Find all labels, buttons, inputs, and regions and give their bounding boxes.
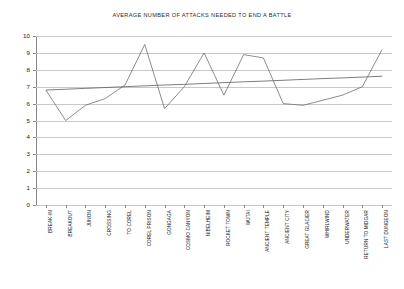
gridline: [36, 36, 392, 37]
x-axis-tick-label: CROSSING: [107, 210, 112, 236]
x-axis-tick-label: ANCIENT TEMPLE: [265, 210, 270, 252]
x-axis-tick-mark: [244, 205, 245, 208]
x-axis-tick-label: TO COREL: [127, 210, 132, 235]
y-axis-tick-label: 7: [8, 83, 30, 90]
x-axis-tick-mark: [125, 205, 126, 208]
y-axis-tick-label: 4: [8, 133, 30, 140]
gridline: [36, 104, 392, 105]
x-axis-tick-mark: [105, 205, 106, 208]
y-axis-tick-mark: [33, 70, 36, 71]
x-axis-tick-label: ROCKET TOWN: [226, 210, 231, 246]
y-axis-tick-mark: [33, 53, 36, 54]
y-axis-tick-label: 2: [8, 167, 30, 174]
data-series-line: [46, 44, 382, 120]
gridline: [36, 137, 392, 138]
chart-container: AVERAGE NUMBER OF ATTACKS NEEDED TO END …: [0, 0, 404, 289]
x-axis-tick-label: ANCIENT CITY: [285, 210, 290, 244]
x-axis-tick-mark: [204, 205, 205, 208]
x-axis-tick-label: BREAKOUT: [68, 210, 73, 236]
y-axis-tick-label: 1: [8, 184, 30, 191]
y-axis-tick-label: 10: [8, 32, 30, 39]
x-axis-tick-label: JUNON: [87, 210, 92, 227]
chart-title: AVERAGE NUMBER OF ATTACKS NEEDED TO END …: [0, 12, 404, 18]
x-axis-tick-label: UNDERWATER: [345, 210, 350, 244]
x-axis-tick-mark: [145, 205, 146, 208]
y-axis-tick-label: 3: [8, 150, 30, 157]
y-axis-tick-label: 8: [8, 66, 30, 73]
series-plot: [0, 0, 404, 289]
y-axis-tick-mark: [33, 154, 36, 155]
x-axis-tick-mark: [362, 205, 363, 208]
y-axis-tick-mark: [33, 188, 36, 189]
x-axis-tick-label: RETURN TO MIDGAR: [364, 210, 369, 259]
x-axis-tick-mark: [303, 205, 304, 208]
x-axis-tick-label: WHIRLWIND: [325, 210, 330, 238]
y-axis-tick-mark: [33, 171, 36, 172]
x-axis-tick-mark: [46, 205, 47, 208]
gridline: [36, 154, 392, 155]
x-axis-tick-mark: [283, 205, 284, 208]
y-axis-tick-mark: [33, 137, 36, 138]
gridline: [36, 171, 392, 172]
trendline: [46, 76, 382, 90]
x-axis-tick-mark: [165, 205, 166, 208]
x-axis-tick-mark: [382, 205, 383, 208]
x-axis-tick-label: NIBELHEIM: [206, 210, 211, 236]
x-axis-tick-mark: [184, 205, 185, 208]
x-axis-tick-mark: [85, 205, 86, 208]
x-axis-tick-label: LAST DUNGEON: [384, 210, 389, 248]
y-axis-tick-label: 5: [8, 117, 30, 124]
y-axis-tick-mark: [33, 36, 36, 37]
y-axis-tick-mark: [33, 104, 36, 105]
x-axis-tick-mark: [323, 205, 324, 208]
x-axis-tick-label: COREL PRISON: [147, 210, 152, 246]
gridline: [36, 205, 392, 206]
y-axis-tick-mark: [33, 121, 36, 122]
gridline: [36, 87, 392, 88]
gridline: [36, 121, 392, 122]
y-axis-tick-label: 9: [8, 49, 30, 56]
y-axis-tick-label: 0: [8, 201, 30, 208]
x-axis-tick-label: GONGAGA: [167, 210, 172, 235]
x-axis-tick-mark: [263, 205, 264, 208]
x-axis-tick-label: COSMO CANYON: [186, 210, 191, 250]
x-axis-tick-mark: [224, 205, 225, 208]
gridline: [36, 53, 392, 54]
x-axis-tick-mark: [66, 205, 67, 208]
gridline: [36, 188, 392, 189]
gridline: [36, 70, 392, 71]
x-axis-tick-label: WUTAI: [246, 210, 251, 225]
x-axis-tick-label: GREAT GLACIER: [305, 210, 310, 249]
x-axis-tick-label: BREAK-IN: [48, 210, 53, 233]
y-axis-tick-mark: [33, 205, 36, 206]
x-axis-tick-mark: [343, 205, 344, 208]
y-axis-tick-mark: [33, 87, 36, 88]
y-axis-tick-label: 6: [8, 100, 30, 107]
